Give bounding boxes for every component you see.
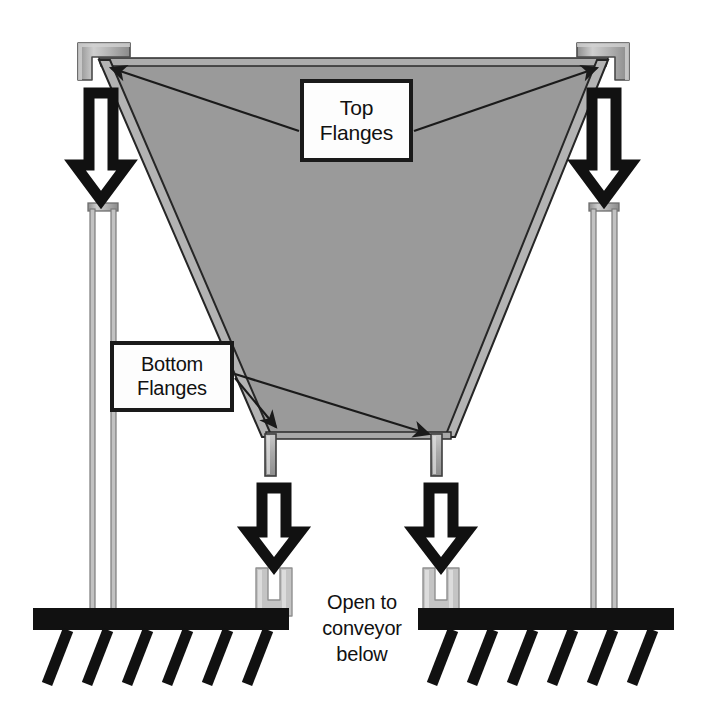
caption-line-2: conveyor (300, 615, 424, 641)
label-top-flanges-line1: Top (340, 96, 373, 120)
conveyor-bar-left (33, 608, 289, 684)
outline-arrow-bottom-right (415, 488, 467, 566)
hopper-top-rim (99, 58, 608, 66)
label-box-bottom-flanges: Bottom Flanges (110, 341, 234, 412)
conveyor-teeth-left (47, 630, 268, 684)
caption-open-to-conveyor: Open to conveyor below (300, 589, 424, 667)
caption-line-3: below (300, 641, 424, 667)
label-top-flanges-line2: Flanges (320, 121, 393, 145)
caption-line-1: Open to (300, 589, 424, 615)
label-bottom-flanges-line2: Flanges (137, 377, 207, 400)
conveyor-teeth-right (432, 630, 653, 684)
bottom-flange-left (265, 434, 276, 476)
outline-arrow-bottom-left (248, 488, 300, 566)
label-bottom-flanges-line1: Bottom (141, 353, 203, 376)
bottom-flange-right (431, 434, 442, 476)
hopper-flange-diagram: Top Flanges Bottom Flanges Open to conve… (0, 0, 703, 714)
guide-post-right (589, 203, 619, 620)
conveyor-bar-right (418, 608, 674, 684)
label-box-top-flanges: Top Flanges (300, 79, 413, 162)
